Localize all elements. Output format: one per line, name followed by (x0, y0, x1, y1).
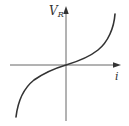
y-axis-label: VR (49, 5, 64, 19)
vi-characteristic-diagram (0, 0, 129, 126)
x-axis-arrow-icon (113, 62, 121, 67)
y-axis-label-subscript: R (58, 10, 64, 19)
x-axis-label: i (115, 71, 119, 82)
y-axis-arrow-icon (63, 6, 68, 14)
y-axis-label-main: V (49, 4, 58, 18)
